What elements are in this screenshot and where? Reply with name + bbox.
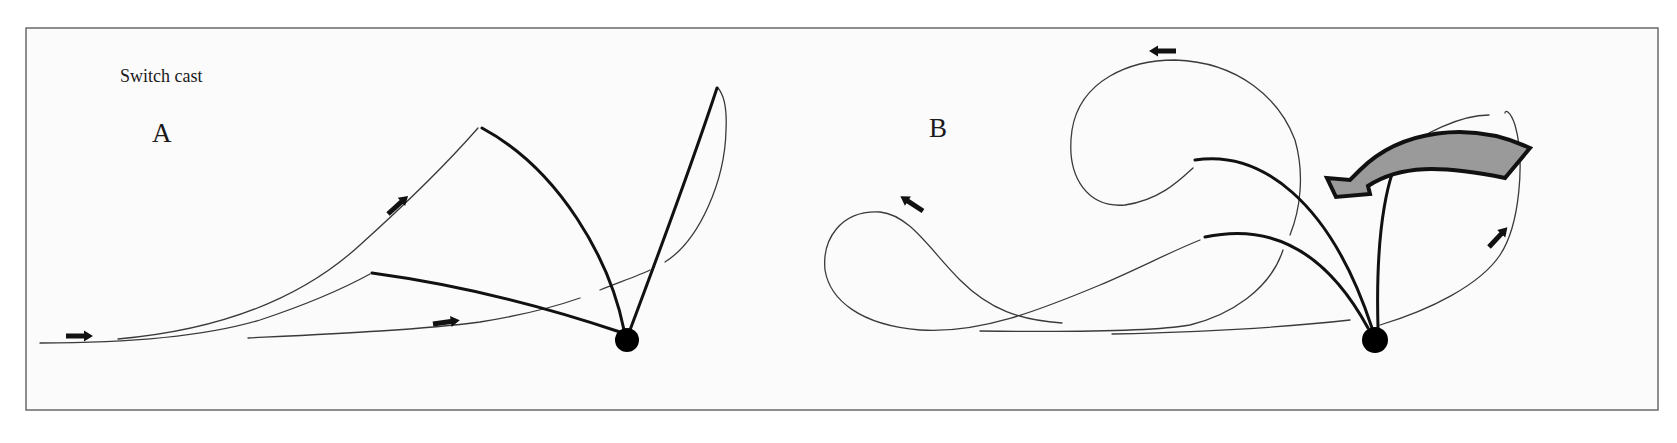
- switch-cast-diagram: Switch cast A B: [0, 0, 1677, 443]
- figure-frame: [26, 28, 1658, 410]
- figure-title: Switch cast: [120, 66, 203, 86]
- panel-b-label: B: [929, 113, 947, 143]
- panel-b-rod-handle-dot: [1362, 327, 1388, 353]
- panel-a-rod-handle-dot: [615, 328, 639, 352]
- panel-a-label: A: [152, 118, 172, 148]
